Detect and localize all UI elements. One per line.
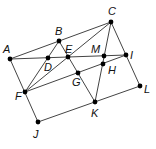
label-i: I [130, 49, 133, 61]
point-m [102, 54, 107, 59]
point-g [76, 71, 81, 76]
label-h: H [108, 64, 116, 76]
label-c: C [108, 5, 116, 17]
point-e [66, 55, 71, 60]
point-a [8, 57, 13, 62]
label-m: M [91, 43, 101, 55]
segment-fb [25, 41, 59, 92]
point-l [138, 84, 143, 89]
point-k [93, 100, 98, 105]
label-f: F [15, 90, 23, 102]
segments [10, 22, 140, 122]
label-d: D [44, 61, 52, 73]
point-f [23, 90, 28, 95]
label-b: B [55, 25, 62, 37]
point-d [46, 56, 51, 61]
label-g: G [72, 76, 81, 88]
label-a: A [2, 43, 10, 55]
label-j: J [32, 128, 39, 140]
label-e: E [65, 43, 73, 55]
label-l: L [144, 83, 150, 95]
geometry-diagram: ABCDEMIHGFJKL [0, 0, 156, 149]
label-k: K [91, 107, 99, 119]
point-i [124, 53, 129, 58]
point-j [36, 120, 41, 125]
point-h [101, 62, 106, 67]
point-c [109, 20, 114, 25]
point-b [57, 39, 62, 44]
